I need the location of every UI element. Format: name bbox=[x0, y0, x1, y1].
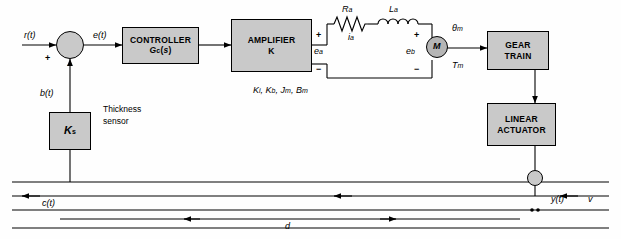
label-feedback-signal: b(t) bbox=[40, 88, 54, 98]
resistor-symbol bbox=[334, 17, 368, 31]
summing-junction bbox=[56, 31, 84, 59]
label-motor-parameters: Ki, Kb, Jm, Bm bbox=[253, 85, 308, 95]
label-motor-torque: Tm bbox=[452, 60, 463, 70]
controller-transfer-function: Gc(s) bbox=[150, 45, 172, 56]
label-back-emf: eb bbox=[406, 46, 415, 56]
block-diagram-figure: + − CONTROLLER Gc(s) AMPLIFIER K GEAR TR… bbox=[0, 0, 621, 239]
motor-label: M bbox=[433, 41, 441, 51]
roller-circle bbox=[527, 170, 543, 186]
label-output-thickness: c(t) bbox=[42, 198, 55, 208]
label-distance: d bbox=[285, 221, 290, 231]
thickness-sensor-text-line1: Thickness bbox=[103, 104, 141, 114]
label-error-signal: e(t) bbox=[93, 30, 107, 40]
linear-actuator-label-line2: ACTUATOR bbox=[497, 125, 546, 136]
amplifier-label: AMPLIFIER bbox=[248, 35, 296, 46]
gear-train-label-line1: GEAR bbox=[505, 40, 530, 51]
label-armature-resistance: Ra bbox=[342, 4, 352, 14]
sensor-gain-label: Ks bbox=[64, 124, 76, 138]
sensor-gain-block[interactable]: Ks bbox=[49, 112, 91, 150]
label-reference-signal: r(t) bbox=[24, 30, 36, 40]
amplifier-block[interactable]: AMPLIFIER K bbox=[231, 19, 312, 72]
controller-label: CONTROLLER bbox=[130, 35, 191, 46]
label-actuator-output: y(t) bbox=[551, 194, 564, 204]
ea-minus-sign: − bbox=[316, 64, 321, 74]
inductor-symbol bbox=[378, 19, 418, 24]
label-armature-voltage: ea bbox=[314, 46, 323, 56]
gear-train-label-line2: TRAIN bbox=[505, 51, 532, 62]
eb-plus-sign: + bbox=[414, 30, 419, 40]
summer-minus-sign: − bbox=[67, 60, 72, 70]
label-armature-current: ia bbox=[348, 32, 354, 42]
label-velocity: v bbox=[588, 194, 593, 204]
label-armature-inductance: La bbox=[389, 4, 398, 14]
controller-block[interactable]: CONTROLLER Gc(s) bbox=[122, 27, 199, 64]
thickness-sensor-text-line2: sensor bbox=[103, 116, 129, 126]
ea-plus-sign: + bbox=[316, 30, 321, 40]
amplifier-gain: K bbox=[268, 46, 274, 57]
label-motor-angle: θm bbox=[452, 23, 463, 33]
linear-actuator-label-line1: LINEAR bbox=[505, 114, 538, 125]
gear-train-block[interactable]: GEAR TRAIN bbox=[487, 31, 549, 70]
eb-minus-sign: − bbox=[414, 64, 419, 74]
summer-plus-sign: + bbox=[45, 53, 50, 63]
linear-actuator-block[interactable]: LINEAR ACTUATOR bbox=[487, 103, 556, 146]
